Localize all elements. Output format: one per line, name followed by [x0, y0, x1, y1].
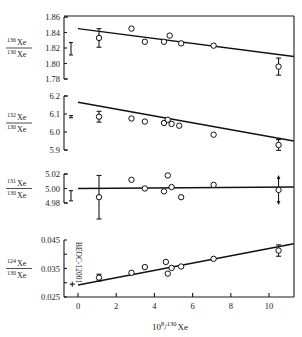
y-label-numerator: 131Xe	[7, 178, 27, 188]
data-point	[177, 123, 182, 128]
y-tick-label: 6.1	[49, 109, 60, 119]
data-point	[161, 189, 166, 194]
arrow-up-icon	[277, 175, 281, 179]
data-point	[142, 264, 147, 269]
arrow-down-icon	[277, 201, 281, 205]
data-point	[276, 187, 281, 192]
y-label-numerator: 132Xe	[7, 112, 27, 122]
data-point	[129, 26, 134, 31]
data-point	[96, 35, 101, 40]
plot-frame	[64, 16, 294, 297]
mass-number: 136	[7, 37, 16, 43]
y-label-denominator: 130Xe	[7, 270, 27, 280]
element: Xe	[17, 259, 27, 268]
y-label-numerator: 136Xe	[7, 37, 27, 47]
x-tick-label: 6	[190, 301, 194, 311]
data-point	[178, 264, 183, 269]
y-tick-label: 6.0	[49, 127, 60, 137]
data-point	[276, 142, 281, 147]
panel-xe131: 4.985.005.02131Xe130Xe	[6, 169, 294, 219]
data-point	[142, 186, 147, 191]
data-point	[178, 195, 183, 200]
data-point	[211, 256, 216, 261]
data-point	[178, 41, 183, 46]
y-tick-label: 1.82	[45, 43, 60, 53]
x-tick-label: 2	[114, 301, 118, 311]
mass-number: 130	[7, 49, 16, 55]
data-point	[165, 173, 170, 178]
y-tick-label: 5.9	[49, 145, 60, 155]
data-point	[169, 265, 174, 270]
sample-annotation: BEOC-12001	[74, 242, 83, 284]
chart: 1.781.801.821.841.86136Xe130Xe5.96.06.16…	[0, 0, 302, 337]
y-tick-label: 1.80	[45, 59, 60, 69]
y-tick-label: 4.98	[45, 198, 60, 208]
data-point	[211, 132, 216, 137]
mass-number: 132	[7, 112, 16, 118]
data-point	[276, 64, 281, 69]
data-point	[96, 114, 101, 119]
element: Xe	[17, 125, 27, 134]
data-point	[276, 248, 281, 253]
fit-line	[78, 29, 294, 57]
y-tick-label: 1.78	[45, 74, 60, 84]
y-tick-label: 1.84	[45, 28, 61, 38]
data-point	[169, 184, 174, 189]
data-point	[163, 259, 168, 264]
fit-line	[78, 102, 294, 141]
mass-number: 130	[7, 190, 16, 196]
data-point	[165, 271, 170, 276]
data-point	[211, 182, 216, 187]
y-tick-label: 0.035	[41, 264, 60, 274]
y-label-numerator: 124Xe	[7, 258, 27, 268]
element: Xe	[17, 38, 27, 47]
element: Xe	[17, 271, 27, 280]
data-point	[169, 121, 174, 126]
element: Xe	[17, 179, 27, 188]
y-tick-label: 6.2	[49, 91, 60, 101]
data-point	[167, 33, 172, 38]
x-tick-label: 4	[152, 301, 157, 311]
element: Xe	[17, 113, 27, 122]
data-point	[96, 275, 101, 280]
x-tick-label: 0	[76, 301, 80, 311]
fit-line	[78, 244, 294, 285]
y-tick-label: 5.02	[45, 169, 60, 179]
mass-number: 130	[7, 270, 16, 276]
x-tick-label: 10	[265, 301, 274, 311]
mass-number: 124	[7, 258, 16, 264]
y-label-denominator: 130Xe	[7, 124, 27, 134]
data-point	[142, 39, 147, 44]
y-label-denominator: 130Xe	[7, 49, 27, 59]
panel-xe132: 5.96.06.16.2132Xe130Xe	[6, 91, 294, 155]
data-point	[129, 270, 134, 275]
y-tick-label: 0.025	[41, 292, 60, 302]
chart-panels: 1.781.801.821.841.86136Xe130Xe5.96.06.16…	[6, 12, 294, 302]
x-axis: 0246810	[76, 293, 273, 311]
y-label-denominator: 130Xe	[7, 190, 27, 200]
x-axis-label: 108/130Xe	[152, 320, 188, 332]
y-tick-label: 0.045	[41, 235, 60, 245]
data-point	[96, 195, 101, 200]
y-tick-label: 1.86	[45, 12, 60, 22]
data-point	[129, 116, 134, 121]
mass-number: 130	[7, 124, 16, 130]
element: Xe	[17, 191, 27, 200]
fit-line	[78, 187, 294, 188]
panel-xe136: 1.781.801.821.841.86136Xe130Xe	[6, 12, 294, 84]
data-point	[129, 177, 134, 182]
x-tick-label: 8	[229, 301, 233, 311]
data-point	[142, 119, 147, 124]
y-tick-label: 5.00	[45, 184, 60, 194]
data-point	[211, 43, 216, 48]
data-point	[161, 39, 166, 44]
panel-xe124: 0.0250.0350.045124Xe130XeBEOC-12001	[6, 235, 294, 302]
element: Xe	[17, 50, 27, 59]
mass-number: 131	[7, 178, 16, 184]
